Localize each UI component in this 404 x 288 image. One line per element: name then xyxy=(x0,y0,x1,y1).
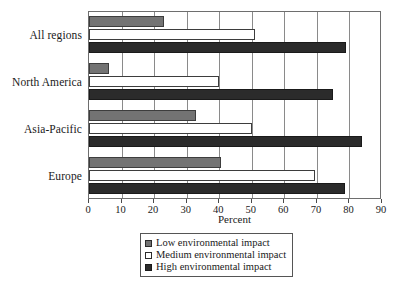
x-tick-mark xyxy=(251,199,252,203)
legend-label: Medium environmental impact xyxy=(156,249,286,261)
bar-chart: All regionsNorth AmericaAsia-PacificEuro… xyxy=(0,0,404,288)
x-tick-mark xyxy=(348,199,349,203)
bar-medium xyxy=(89,123,252,134)
x-tick-mark xyxy=(186,199,187,203)
bar-high xyxy=(89,136,362,147)
legend-label: Low environmental impact xyxy=(156,237,270,249)
x-tick-mark xyxy=(88,199,89,203)
bar-high xyxy=(89,89,333,100)
bar-high xyxy=(89,183,345,194)
bar-group xyxy=(89,153,380,199)
bar-low xyxy=(89,63,109,74)
x-tick-mark xyxy=(218,199,219,203)
bar-group xyxy=(89,12,380,59)
bar-medium xyxy=(89,29,255,40)
x-tick-mark xyxy=(153,199,154,203)
x-tick-mark xyxy=(381,199,382,203)
legend-swatch-low-icon xyxy=(145,240,152,247)
bar-medium xyxy=(89,170,315,181)
bar-low xyxy=(89,157,221,168)
x-tick-mark xyxy=(316,199,317,203)
bar-low xyxy=(89,16,164,27)
x-tick-mark xyxy=(121,199,122,203)
bar-medium xyxy=(89,76,219,87)
category-label: North America xyxy=(0,76,82,88)
x-tick-mark xyxy=(283,199,284,203)
legend-swatch-medium-icon xyxy=(145,252,152,259)
legend-item[interactable]: Low environmental impact xyxy=(145,237,286,249)
category-label: All regions xyxy=(0,29,82,41)
bar-group xyxy=(89,106,380,153)
x-axis-title: Percent xyxy=(88,213,381,226)
plot-area xyxy=(88,11,381,199)
bar-high xyxy=(89,42,346,53)
legend-item[interactable]: Medium environmental impact xyxy=(145,249,286,261)
legend-item[interactable]: High environmental impact xyxy=(145,261,286,273)
category-label: Asia-Pacific xyxy=(0,123,82,135)
legend-label: High environmental impact xyxy=(156,261,271,273)
chart-legend: Low environmental impactMedium environme… xyxy=(140,233,293,277)
category-label: Europe xyxy=(0,170,82,182)
legend-swatch-high-icon xyxy=(145,264,152,271)
bar-low xyxy=(89,110,196,121)
bars-layer xyxy=(89,12,380,198)
bar-group xyxy=(89,59,380,106)
